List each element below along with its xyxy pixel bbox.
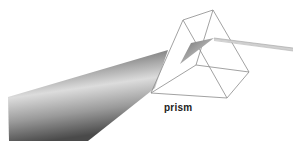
incident-beam [8,50,168,141]
prism-label: prism [164,102,192,113]
internal-beam [180,38,214,64]
exit-beam [214,38,293,51]
prism-diagram [0,0,305,149]
